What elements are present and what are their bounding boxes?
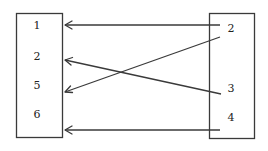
mapping-diagram: 1 2 5 6 2 3 4 <box>0 0 268 151</box>
left-set: 1 2 5 6 <box>17 14 63 138</box>
left-item-2: 2 <box>34 50 41 63</box>
arrow-4-to-6 <box>65 126 220 134</box>
left-item-6: 6 <box>34 108 41 121</box>
right-item-4: 4 <box>228 111 235 124</box>
left-item-1: 1 <box>34 19 41 32</box>
left-item-5: 5 <box>34 79 41 92</box>
mapping-arrows <box>65 21 221 134</box>
right-set: 2 3 4 <box>210 14 255 139</box>
arrow-2-to-1 <box>65 21 220 29</box>
arrow-3-to-2 <box>65 58 221 95</box>
right-item-2: 2 <box>228 22 235 35</box>
right-item-3: 3 <box>228 82 235 95</box>
